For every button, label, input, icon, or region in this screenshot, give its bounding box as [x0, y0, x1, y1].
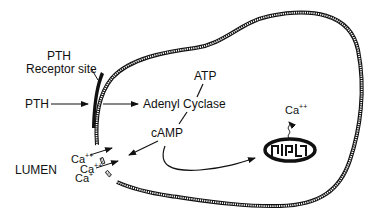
atp-label: ATP — [194, 70, 216, 82]
ca-charge: ++ — [299, 103, 307, 110]
atp-to-cyclase-line — [197, 84, 203, 97]
ca-symbol: Ca — [285, 104, 299, 116]
mitochondrion — [265, 139, 315, 161]
pth-receptor-label-line1: PTH — [47, 50, 71, 62]
camp-to-channel-arrow — [129, 141, 158, 155]
pth-signaling-diagram — [0, 0, 379, 222]
ca-symbol: Ca — [75, 172, 89, 184]
cell-membrane — [96, 13, 361, 207]
camp-to-mitochondrion-arrow — [163, 146, 255, 170]
pth-receptor-label-line2: Receptor site — [26, 63, 97, 75]
cyclase-to-camp-line — [179, 112, 187, 124]
mitochondrion-ca-release-arrow — [288, 122, 290, 138]
ca-charge: + — [89, 171, 93, 178]
mitochondrial-calcium-label: Ca++ — [285, 103, 307, 116]
adenyl-cyclase-label: Adenyl Cyclase — [143, 98, 226, 110]
calcium-ion-label-3: Ca+ — [75, 171, 93, 184]
camp-label: cAMP — [151, 127, 183, 139]
ca-charge: ++ — [85, 152, 93, 159]
ca-charge: ++ — [94, 162, 102, 169]
lumen-label: LUMEN — [15, 164, 57, 176]
ca-entry-arrow-1 — [90, 148, 112, 155]
pth-label: PTH — [25, 98, 49, 110]
